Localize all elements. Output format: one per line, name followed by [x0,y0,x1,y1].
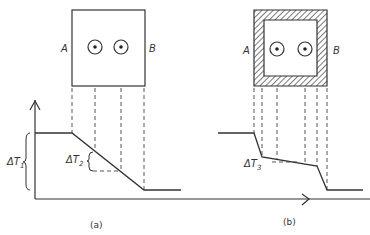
caption-a: (a) [90,220,103,230]
label-delta-t3: ΔT3 [243,158,261,172]
wall-square-a [72,10,145,86]
caption-b: (b) [283,217,296,227]
label-b-left: A [242,45,250,56]
label-delta-t2: ΔT2 [65,154,84,168]
label-b-right: B [333,45,340,56]
panel-b: A B ΔT3 (b) [218,10,363,227]
label-a-right: B [149,43,156,54]
temperature-profile-a [35,133,181,190]
temperature-profile-b [218,133,363,190]
projection-lines-a [72,88,144,190]
wire-icon [270,42,284,56]
projection-lines-b [254,88,327,190]
wire-icon [114,40,128,54]
wire-icon [88,40,102,54]
label-delta-t1: ΔT1 [6,156,24,170]
wire-icon [298,42,312,56]
insulated-wall-b [254,10,327,86]
label-a-left: A [60,43,68,54]
brace-delta-t2 [87,152,93,171]
y-axis-a [30,100,40,199]
temperature-profile-diagram: A B ΔT1 ΔT2 (a) [0,0,370,235]
x-axis [35,194,370,205]
panel-a: A B ΔT1 ΔT2 (a) [6,10,181,230]
